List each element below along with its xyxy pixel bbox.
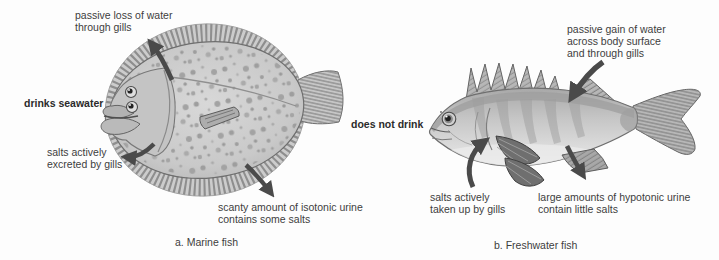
label-line: excreted by gills xyxy=(47,158,122,170)
perch-nostril xyxy=(440,111,442,113)
label-line: passive loss of water xyxy=(75,9,172,21)
label-passive-gain: passive gain of water across body surfac… xyxy=(567,23,666,59)
label-line: through gills xyxy=(75,21,172,33)
osmoregulation-diagram: passive loss of water through gills drin… xyxy=(0,0,719,260)
label-salts-taken-up: salts actively taken up by gills xyxy=(430,191,505,215)
label-line: taken up by gills xyxy=(430,203,505,215)
label-line: salts actively xyxy=(47,146,122,158)
perch-tail-fin xyxy=(633,89,700,154)
label-marine-urine: scanty amount of isotonic urine contains… xyxy=(218,201,363,225)
label-line: salts actively xyxy=(430,191,505,203)
label-line: contain little salts xyxy=(538,203,690,215)
caption-marine-fish: a. Marine fish xyxy=(175,236,238,248)
label-line: contains some salts xyxy=(218,213,363,225)
label-salts-excreted: salts actively excreted by gills xyxy=(47,146,122,170)
label-does-not-drink: does not drink xyxy=(351,118,423,130)
label-line: large amounts of hypotonic urine xyxy=(538,191,690,203)
flatfish-eye-upper xyxy=(126,87,137,98)
label-drinks-seawater: drinks seawater xyxy=(24,97,103,109)
label-line: passive gain of water xyxy=(567,23,666,35)
label-line: and through gills xyxy=(567,47,666,59)
label-line: across body surface xyxy=(567,35,666,47)
perch-eye xyxy=(442,112,456,126)
flatfish-eye-lower xyxy=(127,102,138,113)
caption-freshwater-fish: b. Freshwater fish xyxy=(494,239,577,251)
label-passive-loss: passive loss of water through gills xyxy=(75,9,172,33)
freshwater-fish-illustration xyxy=(429,62,700,187)
marine-fish-illustration xyxy=(97,14,343,206)
label-freshwater-urine: large amounts of hypotonic urine contain… xyxy=(538,191,690,215)
label-line: scanty amount of isotonic urine xyxy=(218,201,363,213)
